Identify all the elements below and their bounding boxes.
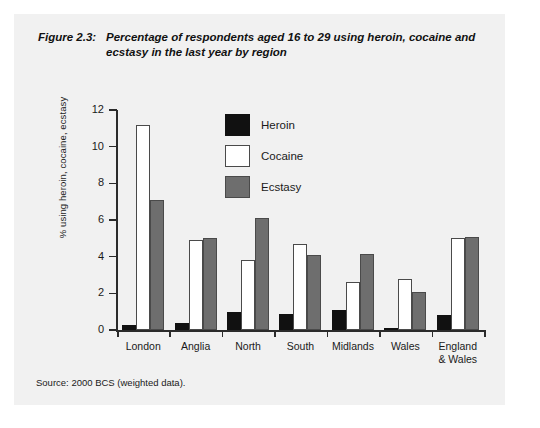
y-axis-tick-label: 4 bbox=[78, 250, 104, 262]
y-axis-tick bbox=[109, 146, 117, 148]
bar-cocaine bbox=[346, 282, 360, 330]
bar-heroin bbox=[122, 325, 136, 331]
bar-group bbox=[327, 110, 379, 330]
bar-ecstasy bbox=[150, 200, 164, 330]
bar-ecstasy bbox=[255, 218, 269, 330]
legend-label: Ecstasy bbox=[261, 181, 301, 193]
x-axis-tick bbox=[379, 330, 381, 337]
legend-item: Heroin bbox=[225, 114, 303, 136]
x-axis-tick-label: England & Wales bbox=[432, 340, 484, 365]
legend-swatch-heroin bbox=[225, 114, 250, 136]
bar-ecstasy bbox=[203, 238, 217, 330]
x-axis-line bbox=[116, 330, 484, 332]
bar-ecstasy bbox=[360, 254, 374, 330]
bar-group bbox=[432, 110, 484, 330]
y-axis-tick-label-holder: 0 bbox=[74, 330, 104, 331]
x-axis-tick-label: Wales bbox=[379, 340, 431, 353]
x-axis-tick bbox=[432, 330, 434, 337]
y-axis-tick bbox=[109, 329, 117, 331]
y-axis-tick bbox=[109, 183, 117, 185]
x-axis-tick bbox=[274, 330, 276, 337]
bar-ecstasy bbox=[412, 292, 426, 331]
x-axis-tick bbox=[117, 330, 119, 337]
bar-heroin bbox=[437, 315, 451, 330]
legend-label: Cocaine bbox=[261, 150, 303, 162]
x-axis-tick bbox=[169, 330, 171, 337]
bar-ecstasy bbox=[307, 255, 321, 330]
bar-heroin bbox=[175, 323, 189, 330]
bar-heroin bbox=[279, 314, 293, 331]
legend-item: Ecstasy bbox=[225, 176, 303, 198]
y-axis-tick-label-holder: 4 bbox=[74, 257, 104, 258]
y-axis-tick bbox=[109, 109, 117, 111]
bar-cocaine bbox=[398, 279, 412, 330]
x-axis-tick bbox=[484, 330, 486, 337]
x-axis-tick-label: South bbox=[274, 340, 326, 353]
x-axis-tick bbox=[222, 330, 224, 337]
y-axis-tick-label: 8 bbox=[78, 176, 104, 188]
y-axis-tick-label: 10 bbox=[78, 140, 104, 152]
bar-group bbox=[117, 110, 169, 330]
y-axis-tick-label: 0 bbox=[78, 323, 104, 335]
legend-swatch-cocaine bbox=[225, 145, 250, 167]
y-axis-tick-label-holder: 8 bbox=[74, 183, 104, 184]
bar-heroin bbox=[332, 310, 346, 330]
y-axis-tick-label-holder: 12 bbox=[74, 110, 104, 111]
bar-group bbox=[169, 110, 221, 330]
chart-legend: HeroinCocaineEcstasy bbox=[225, 114, 303, 207]
legend-item: Cocaine bbox=[225, 145, 303, 167]
y-axis-tick-label-holder: 10 bbox=[74, 147, 104, 148]
x-axis-tick-label: London bbox=[117, 340, 169, 353]
x-axis-tick bbox=[327, 330, 329, 337]
bar-heroin bbox=[384, 328, 398, 330]
bar-cocaine bbox=[293, 244, 307, 330]
bar-group bbox=[379, 110, 431, 330]
y-axis-tick-label: 6 bbox=[78, 213, 104, 225]
y-axis-tick bbox=[109, 256, 117, 258]
bar-cocaine bbox=[241, 260, 255, 330]
bar-heroin bbox=[227, 312, 241, 330]
source-note: Source: 2000 BCS (weighted data). bbox=[36, 377, 185, 388]
y-axis-tick-label-holder: 2 bbox=[74, 293, 104, 294]
bar-ecstasy bbox=[465, 237, 479, 331]
bar-cocaine bbox=[451, 238, 465, 330]
y-axis-tick-label-holder: 6 bbox=[74, 220, 104, 221]
x-axis-tick-label: North bbox=[222, 340, 274, 353]
y-axis-tick bbox=[109, 219, 117, 221]
x-axis-tick-label: Midlands bbox=[327, 340, 379, 353]
y-axis-tick-label: 12 bbox=[78, 103, 104, 115]
y-axis-label: % using heroin, cocaine, ecstasy bbox=[57, 68, 68, 268]
bar-cocaine bbox=[189, 240, 203, 330]
chart-plot-area: % using heroin, cocaine, ecstasy 0246810… bbox=[14, 14, 505, 405]
figure-panel: Figure 2.3: Percentage of respondents ag… bbox=[14, 14, 505, 405]
legend-swatch-ecstasy bbox=[225, 176, 250, 198]
y-axis-tick-label: 2 bbox=[78, 286, 104, 298]
x-axis-tick-label: Anglia bbox=[169, 340, 221, 353]
bar-cocaine bbox=[136, 125, 150, 330]
legend-label: Heroin bbox=[261, 119, 295, 131]
y-axis-tick bbox=[109, 293, 117, 295]
